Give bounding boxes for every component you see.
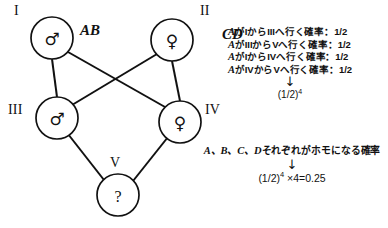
conclusion-formula: (1/2)4 ×4=0.25 <box>196 170 388 184</box>
sex-symbol-male-III: ♂ <box>49 109 64 129</box>
probability-line-4: AがIVからVへ行く確率：1/2 <box>228 64 388 77</box>
conclusion-statement: A、B、C、Dそれぞれがホモになる確率 <box>196 142 388 157</box>
notes-result-exponent: 4 <box>298 88 302 95</box>
genotype-label-AB: AB <box>80 22 100 39</box>
sex-symbol-male-I: ♂ <box>44 29 59 49</box>
sex-symbol-unknown-V: ? <box>114 188 121 205</box>
edge-IV-V <box>133 137 168 181</box>
conclusion-statement-text: それぞれがホモになる確率 <box>262 145 381 156</box>
gene-letter-3: A <box>228 51 235 62</box>
probability-line-2: AがIIIからVへ行く確率：1/2 <box>228 39 388 52</box>
probability-line-2-text: がIIIからVへ行く確率：1/2 <box>235 39 351 50</box>
pedigree-diagram: ♂ ♀ ♂ ♀ ? I II III IV V AB <box>0 0 210 228</box>
generation-label-V: V <box>110 155 120 171</box>
edge-I-III <box>52 59 57 97</box>
pedigree-svg: ♂ ♀ ♂ ♀ ? <box>0 0 210 228</box>
gene-letter-4: A <box>228 64 235 75</box>
probability-line-1: AがIからIIIへ行く確率：1/2 <box>228 26 388 39</box>
notes-result-formula: (1/2)4 <box>242 88 338 100</box>
conclusion-formula-rest: ×4=0.25 <box>284 172 325 184</box>
probability-line-1-text: がIからIIIへ行く確率：1/2 <box>235 26 347 37</box>
sex-symbol-female-IV: ♀ <box>174 113 186 133</box>
generation-label-II: II <box>200 3 210 19</box>
gene-letter-2: A <box>228 39 235 50</box>
edge-II-IV <box>172 61 180 101</box>
gene-letter-1: A <box>228 26 235 37</box>
probability-line-3-text: がIからIVへ行く確率：1/2 <box>235 51 348 62</box>
sex-symbol-female-II: ♀ <box>166 31 178 51</box>
probability-notes: AがIからIIIへ行く確率：1/2 AがIIIからVへ行く確率：1/2 AがIか… <box>228 26 388 101</box>
probability-line-3: AがIからIVへ行く確率：1/2 <box>228 51 388 64</box>
figure-root: ♂ ♀ ♂ ♀ ? I II III IV V AB CD AがIからIIIへ行… <box>0 0 388 228</box>
conclusion-formula-base: (1/2) <box>258 172 280 184</box>
conclusion-genes: A、B、C、D <box>204 145 262 156</box>
conclusion-block: A、B、C、Dそれぞれがホモになる確率 ↓ (1/2)4 ×4=0.25 <box>196 142 388 184</box>
conclusion-arrow-row: ↓ <box>196 157 388 170</box>
generation-label-III: III <box>8 102 23 118</box>
probability-line-4-text: がIVからVへ行く確率：1/2 <box>235 64 352 75</box>
generation-label-I: I <box>14 3 19 19</box>
notes-result-base: (1/2) <box>278 90 299 101</box>
down-arrow-icon: ↓ <box>285 74 296 89</box>
notes-arrow-row: ↓ <box>242 76 338 88</box>
generation-label-IV: IV <box>205 102 220 118</box>
edge-III-V <box>68 134 104 180</box>
